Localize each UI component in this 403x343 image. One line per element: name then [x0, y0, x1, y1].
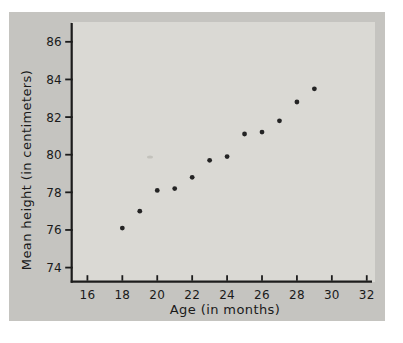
scatter-plot-canvas: 16182022242628303274767880828486: [0, 0, 403, 343]
data-point: [172, 186, 177, 191]
data-point: [120, 226, 125, 231]
y-tick-label: 84: [46, 73, 62, 87]
x-axis-title: Age (in months): [170, 302, 280, 317]
y-tick-label: 86: [46, 35, 62, 49]
data-point: [260, 130, 265, 135]
x-tick-label: 20: [149, 288, 165, 302]
data-point: [277, 118, 282, 123]
x-tick-label: 32: [359, 288, 375, 302]
y-tick-label: 80: [46, 148, 62, 162]
data-point: [155, 188, 160, 193]
y-tick-label: 76: [46, 223, 62, 237]
data-point: [207, 158, 212, 163]
data-point: [190, 175, 195, 180]
y-tick-label: 82: [46, 111, 62, 125]
data-point: [225, 154, 230, 159]
y-axis-title: Mean height (in centimeters): [19, 70, 34, 270]
x-tick-label: 22: [184, 288, 200, 302]
data-point: [137, 209, 142, 214]
data-point: [242, 132, 247, 137]
data-point: [312, 86, 317, 91]
smudge-artifact: [147, 155, 153, 158]
x-tick-label: 30: [324, 288, 340, 302]
x-tick-label: 24: [219, 288, 235, 302]
x-tick-label: 16: [79, 288, 95, 302]
x-tick-label: 28: [289, 288, 305, 302]
x-tick-label: 18: [114, 288, 130, 302]
scatterplot-figure: 16182022242628303274767880828486 Mean he…: [0, 0, 403, 343]
y-tick-label: 74: [46, 261, 62, 275]
x-tick-label: 26: [254, 288, 270, 302]
y-tick-label: 78: [46, 186, 62, 200]
data-point: [295, 100, 300, 105]
